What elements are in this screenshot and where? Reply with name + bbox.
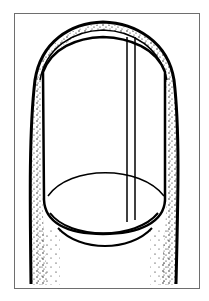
- nail-plate: [43, 37, 165, 234]
- finger-shading-lower-right: [150, 230, 172, 285]
- finger-shading-lower-left: [38, 230, 60, 285]
- illustration: [0, 0, 209, 301]
